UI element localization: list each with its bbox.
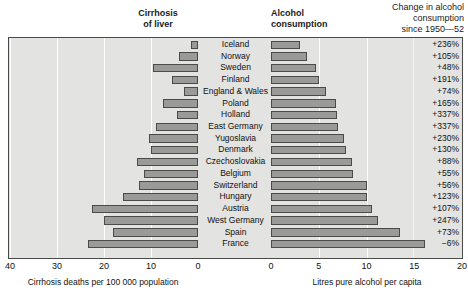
alcohol-bar <box>271 158 352 166</box>
cirrhosis-bar <box>104 216 198 224</box>
cirrhosis-bar <box>177 111 198 119</box>
cirrhosis-bar <box>92 205 198 213</box>
country-label: Yugoslavia <box>199 133 272 145</box>
cirrhosis-bar <box>137 158 198 166</box>
country-label: France <box>199 238 272 250</box>
percent-change-value: +74% <box>399 86 459 98</box>
chart-row: Yugoslavia+230% <box>9 133 462 145</box>
left-tick-label: 30 <box>42 261 72 271</box>
alcohol-bar <box>271 52 307 60</box>
country-label: Finland <box>199 74 272 86</box>
percent-change-value: +130% <box>399 144 459 156</box>
chart-row: Hungary+123% <box>9 191 462 203</box>
country-label: East Germany <box>199 121 272 133</box>
chart-row: Denmark+130% <box>9 144 462 156</box>
chart-row: Spain+73% <box>9 227 462 239</box>
percent-change-value: +88% <box>399 156 459 168</box>
left-tick-label: 10 <box>136 261 166 271</box>
country-label: Poland <box>199 98 272 110</box>
alcohol-bar <box>271 228 400 236</box>
alcohol-bar <box>271 193 367 201</box>
chart-row: Holland+337% <box>9 109 462 121</box>
percent-change-value: +230% <box>399 133 459 145</box>
country-label: England & Wales <box>199 86 272 98</box>
right-axis-caption: Litres pure alcohol per capita <box>271 277 463 287</box>
percent-change-value: +247% <box>399 215 459 227</box>
alcohol-bar <box>271 205 372 213</box>
percent-change-value: +337% <box>399 109 459 121</box>
cirrhosis-bar <box>172 76 198 84</box>
chart-row: West Germany+247% <box>9 215 462 227</box>
right-tick-label: 5 <box>304 261 334 271</box>
alcohol-bar <box>271 99 336 107</box>
alcohol-bar <box>271 111 337 119</box>
percent-change-value: +107% <box>399 203 459 215</box>
percent-change-value: +56% <box>399 180 459 192</box>
country-label: Sweden <box>199 62 272 74</box>
country-label: Hungary <box>199 191 272 203</box>
percent-change-value: +191% <box>399 74 459 86</box>
alcohol-bar <box>271 76 319 84</box>
cirrhosis-bar <box>149 134 198 142</box>
left-tick-label: 20 <box>89 261 119 271</box>
chart-row: Sweden+48% <box>9 62 462 74</box>
cirrhosis-bar <box>113 228 198 236</box>
percent-change-value: +165% <box>399 98 459 110</box>
alcohol-bar <box>271 146 346 154</box>
cirrhosis-bar <box>139 181 198 189</box>
cirrhosis-bar <box>153 64 198 72</box>
alcohol-bar <box>271 216 378 224</box>
percent-change-value: +337% <box>399 121 459 133</box>
country-label: Denmark <box>199 144 272 156</box>
chart-row: Czechoslovakia+88% <box>9 156 462 168</box>
chart-row: Finland+191% <box>9 74 462 86</box>
percent-change-value: +236% <box>399 39 459 51</box>
alcohol-bar <box>271 170 353 178</box>
cirrhosis-column-title: Cirrhosis of liver <box>118 8 198 30</box>
change-column-title: Change in alcohol consumption since 1950… <box>360 2 464 35</box>
alcohol-bar <box>271 123 338 131</box>
chart-row: England & Wales+74% <box>9 86 462 98</box>
country-label: Iceland <box>199 39 272 51</box>
country-label: Holland <box>199 109 272 121</box>
country-label: Switzerland <box>199 180 272 192</box>
chart-rows: Iceland+236%Norway+105%Sweden+48%Finland… <box>9 38 462 258</box>
right-tick-label: 15 <box>399 261 429 271</box>
cirrhosis-bar <box>163 99 198 107</box>
left-axis-caption: Cirrhosis deaths per 100 000 population <box>8 277 198 287</box>
chart-row: Norway+105% <box>9 51 462 63</box>
right-tick-label: 20 <box>447 261 468 271</box>
country-label: Austria <box>199 203 272 215</box>
chart-plot-area: Iceland+236%Norway+105%Sweden+48%Finland… <box>8 37 463 259</box>
percent-change-value: +73% <box>399 227 459 239</box>
alcohol-column-title: Alcohol consumption <box>271 8 371 30</box>
alcohol-bar <box>271 134 344 142</box>
percent-change-value: +105% <box>399 51 459 63</box>
percent-change-value: +48% <box>399 62 459 74</box>
cirrhosis-bar <box>123 193 198 201</box>
country-label: West Germany <box>199 215 272 227</box>
cirrhosis-bar <box>184 87 198 95</box>
chart-row: France−6% <box>9 238 462 250</box>
chart-row: Belgium+55% <box>9 168 462 180</box>
chart-row: Austria+107% <box>9 203 462 215</box>
chart-header: Cirrhosis of liver Alcohol consumption C… <box>0 0 468 36</box>
country-label: Spain <box>199 227 272 239</box>
percent-change-value: +123% <box>399 191 459 203</box>
alcohol-bar <box>271 41 300 49</box>
percent-change-value: −6% <box>399 238 459 250</box>
alcohol-bar <box>271 64 316 72</box>
chart-row: Poland+165% <box>9 98 462 110</box>
chart-row: Switzerland+56% <box>9 180 462 192</box>
cirrhosis-bar <box>144 170 198 178</box>
right-tick-label: 10 <box>352 261 382 271</box>
cirrhosis-bar <box>179 52 198 60</box>
left-tick-label: 40 <box>0 261 25 271</box>
percent-change-value: +55% <box>399 168 459 180</box>
right-tick-label: 0 <box>256 261 286 271</box>
chart-row: East Germany+337% <box>9 121 462 133</box>
country-label: Belgium <box>199 168 272 180</box>
cirrhosis-bar <box>151 146 198 154</box>
chart-row: Iceland+236% <box>9 39 462 51</box>
country-label: Czechoslovakia <box>199 156 272 168</box>
